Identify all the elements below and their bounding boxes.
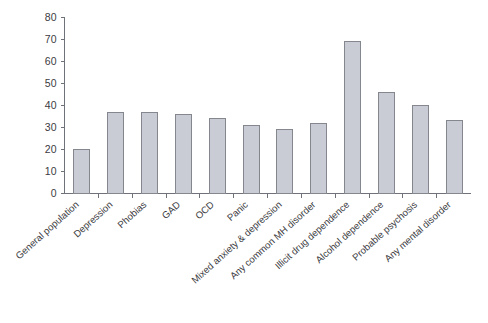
x-axis-category-label: GAD: [159, 199, 182, 221]
x-axis-category-label: Phobias: [115, 199, 148, 231]
y-axis-tick-label: 30: [45, 121, 57, 133]
bar: [311, 123, 327, 193]
bar: [74, 150, 90, 194]
bar: [108, 112, 124, 193]
x-axis-tick-group: [98, 194, 436, 198]
bar: [345, 42, 361, 194]
bar: [277, 130, 293, 194]
y-axis-tick-label: 80: [45, 11, 57, 23]
x-axis-category-label-group: General populationDepressionPhobiasGADOC…: [13, 198, 453, 285]
bar: [244, 125, 260, 193]
x-axis-category-label: General population: [13, 199, 81, 261]
y-axis-tick-label: 50: [45, 77, 57, 89]
bar: [176, 114, 192, 193]
y-axis-label-group: 01020304050607080: [45, 11, 57, 199]
x-axis-category-label: OCD: [193, 199, 216, 221]
y-axis-tick-label: 0: [51, 187, 57, 199]
bar: [379, 92, 395, 193]
bar: [210, 119, 226, 194]
y-axis-tick-label: 40: [45, 99, 57, 111]
y-axis-tick-label: 60: [45, 55, 57, 67]
x-axis-category-label: Panic: [225, 199, 250, 223]
bar-chart: 01020304050607080 General populationDepr…: [0, 0, 488, 323]
y-axis-tick-label: 70: [45, 33, 57, 45]
x-axis-category-label: Any mental disorder: [382, 198, 453, 264]
bar: [447, 121, 463, 194]
y-axis-tick-label: 20: [45, 143, 57, 155]
chart-canvas: 01020304050607080 General populationDepr…: [0, 0, 488, 323]
y-axis-tick-label: 10: [45, 165, 57, 177]
bar-series: [74, 42, 463, 194]
bar: [413, 106, 429, 194]
y-axis-tick-group: [61, 18, 65, 194]
bar: [142, 112, 158, 193]
